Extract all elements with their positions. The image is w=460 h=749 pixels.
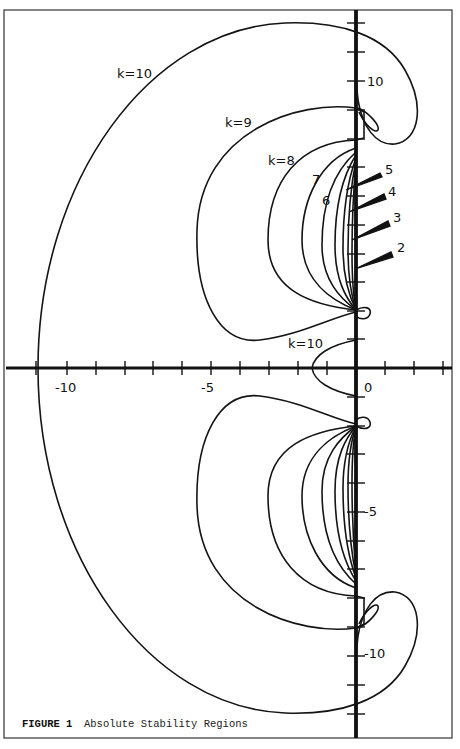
label-k10-outer: k=10: [117, 66, 152, 81]
label-k7: 7: [312, 172, 320, 187]
y-tick-label-10: 10: [367, 74, 384, 89]
y-tick-label-neg5: -5: [364, 504, 377, 519]
caption-figure-number: FIGURE 1: [22, 718, 72, 730]
label-k2: 2: [397, 240, 405, 255]
label-k5: 5: [385, 162, 393, 177]
label-k8: k=8: [268, 153, 295, 168]
curve-small-lobe: [356, 307, 370, 318]
label-k3: 3: [393, 210, 401, 225]
caption-title: Absolute Stability Regions: [84, 718, 248, 730]
stability-regions-figure: -10 -5 0 10 -5 -10: [0, 0, 460, 749]
label-k9: k=9: [225, 115, 252, 130]
label-k10-inner: k=10: [288, 336, 323, 351]
label-k4: 4: [388, 184, 396, 199]
x-tick-label-neg5: -5: [201, 380, 214, 395]
label-k6: 6: [322, 193, 330, 208]
y-tick-label-neg10: -10: [364, 646, 385, 661]
x-tick-label-neg10: -10: [55, 380, 76, 395]
x-tick-label-zero: 0: [364, 380, 372, 395]
curve-k9: [197, 107, 356, 341]
